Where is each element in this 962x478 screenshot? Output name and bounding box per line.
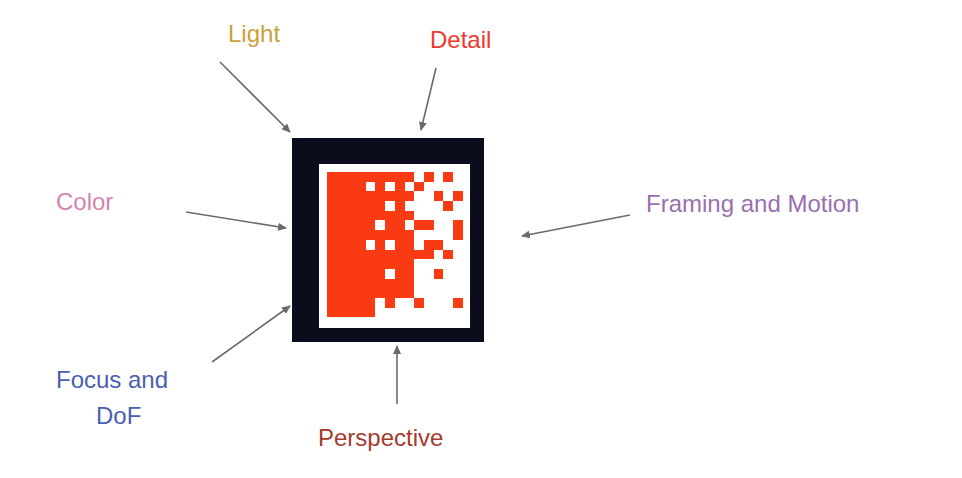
pixel-cell bbox=[337, 279, 347, 289]
pixel-cell bbox=[375, 250, 385, 260]
pixel-cell bbox=[337, 288, 347, 298]
pixel-cell bbox=[366, 279, 376, 289]
pixel-cell bbox=[434, 191, 444, 201]
pixel-cell bbox=[424, 201, 434, 211]
pixel-cell bbox=[395, 308, 405, 318]
pixel-cell bbox=[434, 172, 444, 182]
pixel-cell bbox=[414, 220, 424, 230]
center-image-icon bbox=[292, 138, 484, 342]
pixel-cell bbox=[346, 191, 356, 201]
pixel-cell bbox=[424, 259, 434, 269]
pixel-cell bbox=[375, 220, 385, 230]
pixel-cell bbox=[434, 269, 444, 279]
pixel-cell bbox=[424, 298, 434, 308]
pixel-cell bbox=[405, 250, 415, 260]
pixel-cell bbox=[414, 269, 424, 279]
pixel-cell bbox=[443, 288, 453, 298]
detail-arrow-icon bbox=[421, 68, 436, 130]
pixel-cell bbox=[327, 230, 337, 240]
pixel-cell bbox=[395, 191, 405, 201]
pixel-cell bbox=[434, 279, 444, 289]
pixel-cell bbox=[395, 269, 405, 279]
pixel-cell bbox=[356, 269, 366, 279]
pixel-cell bbox=[385, 172, 395, 182]
pixel-cell bbox=[405, 259, 415, 269]
pixel-cell bbox=[356, 191, 366, 201]
light-arrow-icon bbox=[220, 62, 290, 132]
pixel-cell bbox=[434, 240, 444, 250]
pixel-cell bbox=[327, 220, 337, 230]
pixel-cell bbox=[366, 191, 376, 201]
pixel-cell bbox=[453, 191, 463, 201]
pixel-cell bbox=[405, 269, 415, 279]
pixel-cell bbox=[337, 250, 347, 260]
pixel-cell bbox=[414, 298, 424, 308]
pixel-cell bbox=[375, 288, 385, 298]
pixel-cell bbox=[385, 201, 395, 211]
pixel-cell bbox=[385, 240, 395, 250]
pixel-cell bbox=[346, 259, 356, 269]
pixel-cell bbox=[366, 230, 376, 240]
pixel-cell bbox=[424, 191, 434, 201]
pixel-cell bbox=[375, 211, 385, 221]
pixel-cell bbox=[434, 211, 444, 221]
pixel-cell bbox=[405, 288, 415, 298]
pixel-cell bbox=[395, 288, 405, 298]
label-focus-line1: Focus and bbox=[56, 366, 168, 395]
pixel-cell bbox=[424, 182, 434, 192]
pixel-cell bbox=[356, 240, 366, 250]
pixel-cell bbox=[337, 182, 347, 192]
pixel-cell bbox=[385, 308, 395, 318]
pixel-cell bbox=[356, 201, 366, 211]
pixel-cell bbox=[375, 279, 385, 289]
pixel-cell bbox=[327, 308, 337, 318]
pixel-cell bbox=[405, 201, 415, 211]
pixel-cell bbox=[443, 298, 453, 308]
pixel-cell bbox=[366, 220, 376, 230]
pixel-cell bbox=[375, 182, 385, 192]
pixel-cell bbox=[346, 250, 356, 260]
pixel-cell bbox=[395, 279, 405, 289]
pixel-cell bbox=[327, 211, 337, 221]
pixel-cell bbox=[453, 298, 463, 308]
pixel-cell bbox=[405, 298, 415, 308]
pixel-cell bbox=[414, 201, 424, 211]
pixel-cell bbox=[346, 172, 356, 182]
pixel-cell bbox=[327, 259, 337, 269]
pixel-cell bbox=[385, 230, 395, 240]
pixel-cell bbox=[337, 259, 347, 269]
pixel-cell bbox=[434, 250, 444, 260]
pixel-cell bbox=[356, 230, 366, 240]
pixel-cell bbox=[434, 182, 444, 192]
pixel-cell bbox=[453, 230, 463, 240]
pixel-cell bbox=[434, 259, 444, 269]
pixel-cell bbox=[395, 240, 405, 250]
pixel-cell bbox=[443, 259, 453, 269]
pixel-cell bbox=[434, 220, 444, 230]
pixel-cell bbox=[337, 220, 347, 230]
pixel-cell bbox=[337, 240, 347, 250]
pixel-cell bbox=[414, 230, 424, 240]
pixel-cell bbox=[395, 230, 405, 240]
pixel-cell bbox=[337, 269, 347, 279]
pixel-cell bbox=[356, 211, 366, 221]
pixel-cell bbox=[366, 269, 376, 279]
pixel-cell bbox=[385, 279, 395, 289]
pixel-cell bbox=[356, 182, 366, 192]
pixel-cell bbox=[395, 220, 405, 230]
pixel-cell bbox=[366, 308, 376, 318]
pixel-cell bbox=[414, 182, 424, 192]
framing-arrow-icon bbox=[522, 215, 630, 236]
pixel-cell bbox=[453, 259, 463, 269]
pixel-cell bbox=[443, 172, 453, 182]
pixel-cell bbox=[356, 288, 366, 298]
pixel-cell bbox=[385, 250, 395, 260]
pixel-gradient-grid bbox=[327, 172, 463, 317]
pixel-cell bbox=[366, 201, 376, 211]
pixel-cell bbox=[443, 191, 453, 201]
label-framing: Framing and Motion bbox=[646, 190, 859, 219]
pixel-cell bbox=[346, 182, 356, 192]
pixel-cell bbox=[453, 279, 463, 289]
pixel-cell bbox=[453, 211, 463, 221]
pixel-cell bbox=[424, 288, 434, 298]
